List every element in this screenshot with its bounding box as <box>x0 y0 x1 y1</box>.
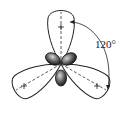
plus-sign-right <box>94 83 100 89</box>
plus-sign-top <box>58 24 64 30</box>
arrow-head-top-icon <box>70 20 74 24</box>
small-lobe-bottom <box>56 70 67 86</box>
sp2-orbital-diagram: 120° <box>0 0 126 116</box>
angle-label: 120° <box>95 38 116 50</box>
